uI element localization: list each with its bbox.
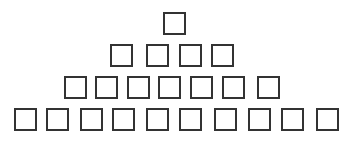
square-box-row3-1 [64, 76, 87, 99]
square-box-row4-9 [281, 108, 304, 131]
square-box-row3-4 [158, 76, 181, 99]
square-box-row4-1 [14, 108, 37, 131]
square-box-row2-1 [110, 44, 133, 67]
square-box-row4-2 [46, 108, 69, 131]
square-box-row3-3 [127, 76, 150, 99]
square-box-row3-2 [95, 76, 118, 99]
square-box-row4-6 [179, 108, 202, 131]
square-box-row2-4 [211, 44, 234, 67]
square-box-row4-4 [112, 108, 135, 131]
square-box-row2-3 [179, 44, 202, 67]
square-box-row4-8 [248, 108, 271, 131]
square-box-row3-6 [222, 76, 245, 99]
square-box-row3-7 [257, 76, 280, 99]
cutoff-text-fragment [0, 0, 350, 3]
square-box-row4-10 [316, 108, 339, 131]
square-box-row2-2 [146, 44, 169, 67]
square-box-row4-7 [214, 108, 237, 131]
square-box-row4-5 [146, 108, 169, 131]
square-box-row1-1 [163, 12, 186, 35]
square-box-row3-5 [190, 76, 213, 99]
square-box-row4-3 [80, 108, 103, 131]
